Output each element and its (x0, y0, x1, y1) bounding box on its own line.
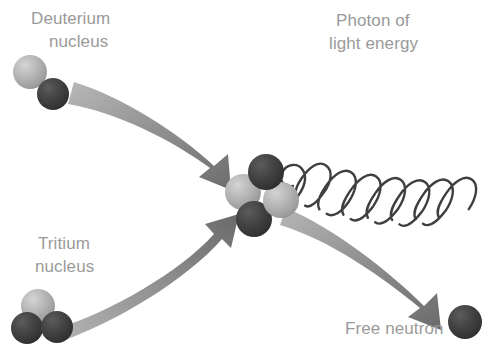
arrow-nucleus-to-free-neutron (280, 208, 441, 330)
label-deuterium-line1: Deuterium (31, 9, 110, 28)
label-photon-line2: light energy (329, 34, 418, 53)
neutron-sphere (37, 78, 69, 110)
arrow-deuterium-to-nucleus (68, 82, 231, 190)
deuterium-nucleus (13, 55, 69, 110)
free-neutron-particle (448, 305, 482, 339)
label-photon-line1: Photon of (336, 11, 410, 30)
label-tritium-line1: Tritium (38, 234, 90, 253)
neutron-sphere (11, 312, 43, 344)
neutron-sphere (41, 311, 73, 343)
neutron-sphere (448, 305, 482, 339)
label-deuterium-line2: nucleus (49, 32, 108, 51)
tritium-nucleus (11, 289, 73, 344)
label-free-neutron: Free neutron (345, 319, 444, 338)
neutron-sphere (248, 154, 284, 190)
label-tritium-line2: nucleus (35, 257, 94, 276)
fusion-diagram: Deuterium nucleus Photon of light energy… (0, 0, 492, 359)
photon-helix (278, 123, 482, 257)
diagram-canvas: Deuterium nucleus Photon of light energy… (0, 0, 492, 359)
